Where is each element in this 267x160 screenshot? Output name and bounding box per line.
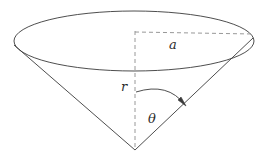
cone-left-slant-line: [14, 45, 135, 150]
label-radius: r: [121, 79, 128, 94]
half-angle-arc: [136, 89, 185, 105]
cone-diagram-svg: r a θ: [0, 0, 267, 160]
cone-rim-ellipse: [14, 11, 254, 71]
cone-top-radius-dashed-line: [135, 32, 253, 34]
cone-right-slant-line: [135, 38, 253, 150]
label-axis-top: a: [169, 37, 177, 52]
label-angle-theta: θ: [148, 111, 156, 126]
cone-diagram-figure: r a θ: [0, 0, 267, 160]
